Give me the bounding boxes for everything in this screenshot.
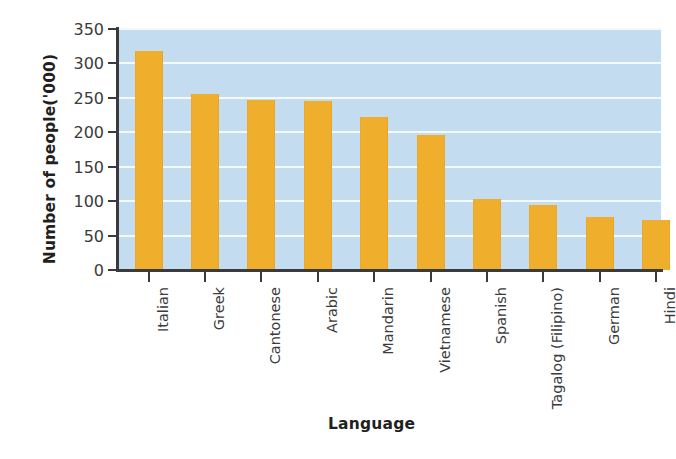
bar [473,199,501,270]
y-axis-tick-label: 0 [4,261,104,280]
x-axis-tick [317,272,319,282]
plot-area [118,29,661,270]
y-axis-tick-label: 350 [4,20,104,39]
y-axis-tick [108,200,117,202]
bar [135,51,163,270]
x-axis-tick [655,272,657,282]
y-axis-tick [108,97,117,99]
x-axis-tick [148,272,150,282]
x-axis-category-label: Italian [155,287,171,332]
bars-group [118,29,661,270]
y-axis-tick [108,235,117,237]
y-axis-tick-label: 50 [4,226,104,245]
y-axis-tick-labels: 050100150200250300350 [0,0,104,459]
y-axis-tick-label: 100 [4,192,104,211]
x-axis-line [116,269,663,272]
y-axis-tick-label: 150 [4,157,104,176]
x-axis-category-label: Tagalog (Filipino) [549,287,565,409]
x-axis-title: Language [328,415,415,433]
bar [586,217,614,270]
y-axis-tick-label: 250 [4,88,104,107]
bar [529,205,557,270]
x-axis-tick [599,272,601,282]
x-axis-category-label: Arabic [324,287,340,333]
bar [642,220,670,270]
x-axis-tick [542,272,544,282]
y-axis-tick [108,62,117,64]
y-axis-tick-label: 200 [4,123,104,142]
x-axis-category-label: Spanish [493,287,509,344]
bar [247,100,275,270]
x-axis-category-label: German [606,287,622,345]
x-axis-category-label: Cantonese [267,287,283,364]
x-axis-tick [430,272,432,282]
bar [417,135,445,270]
bar [360,117,388,270]
y-axis-tick-label: 300 [4,54,104,73]
x-axis-category-label: Mandarin [380,287,396,355]
x-axis-tick [486,272,488,282]
y-axis-tick [108,28,117,30]
x-axis-tick [260,272,262,282]
x-axis-category-label: Hindi [662,287,676,324]
bar [304,101,332,270]
y-axis-tick [108,166,117,168]
x-axis-category-label: Greek [211,287,227,330]
bar [191,94,219,270]
x-axis-tick [373,272,375,282]
bar-chart-figure: Number of people('000) 05010015020025030… [0,0,676,459]
y-axis-tick [108,269,117,271]
x-axis-category-label: Vietnamese [437,287,453,373]
x-axis-tick [204,272,206,282]
y-axis-tick [108,131,117,133]
